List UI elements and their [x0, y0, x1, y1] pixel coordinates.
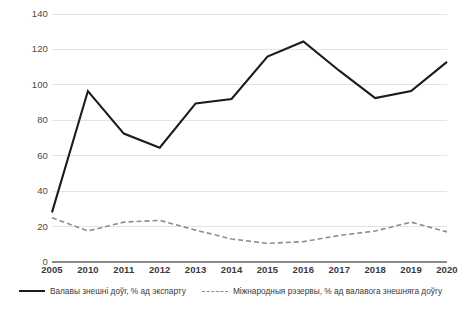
series-lines — [52, 14, 447, 262]
x-axis-tick-label: 2018 — [355, 264, 395, 276]
y-axis-tick-label: 140 — [4, 9, 48, 19]
legend-item-international-reserves: Міжнародныя рэзервы, % ад валавога знешн… — [202, 286, 442, 296]
x-axis-tick-labels: 2005201020112012201320142015201620172018… — [52, 264, 447, 278]
y-axis-tick-label: 80 — [4, 115, 48, 125]
x-axis-tick-label: 2020 — [427, 264, 461, 276]
legend-swatch-solid-line-icon — [19, 290, 45, 292]
y-axis-tick-label: 100 — [4, 80, 48, 90]
legend-item-label: Міжнародныя рэзервы, % ад валавога знешн… — [233, 286, 442, 296]
x-axis-tick-label: 2014 — [212, 264, 252, 276]
x-axis-tick-label: 2013 — [176, 264, 216, 276]
legend-swatch-dashed-line-icon — [202, 291, 228, 292]
legend-item-label: Валавы знешні доўг, % ад экспарту — [50, 286, 186, 296]
x-axis-tick-label: 2012 — [140, 264, 180, 276]
series-line-2 — [52, 218, 447, 244]
line-chart: 020406080100120140 200520102011201220132… — [0, 0, 461, 315]
x-axis-tick-label: 2019 — [391, 264, 431, 276]
x-axis-tick-label: 2005 — [32, 264, 72, 276]
y-axis-tick-label: 20 — [4, 222, 48, 232]
plot-area — [52, 14, 447, 262]
y-axis-tick-label: 40 — [4, 186, 48, 196]
x-axis-tick-label: 2017 — [319, 264, 359, 276]
series-line-1 — [52, 41, 447, 212]
chart-legend: Валавы знешні доўг, % ад экспарту Міжнар… — [0, 286, 461, 296]
x-axis-tick-label: 2015 — [247, 264, 287, 276]
x-axis-tick-label: 2011 — [104, 264, 144, 276]
x-axis-tick-label: 2016 — [283, 264, 323, 276]
y-axis-tick-label: 120 — [4, 44, 48, 54]
y-axis-tick-label: 60 — [4, 151, 48, 161]
legend-item-gross-external-debt: Валавы знешні доўг, % ад экспарту — [19, 286, 186, 296]
y-axis-tick-labels: 020406080100120140 — [0, 14, 48, 262]
x-axis-tick-label: 2010 — [68, 264, 108, 276]
